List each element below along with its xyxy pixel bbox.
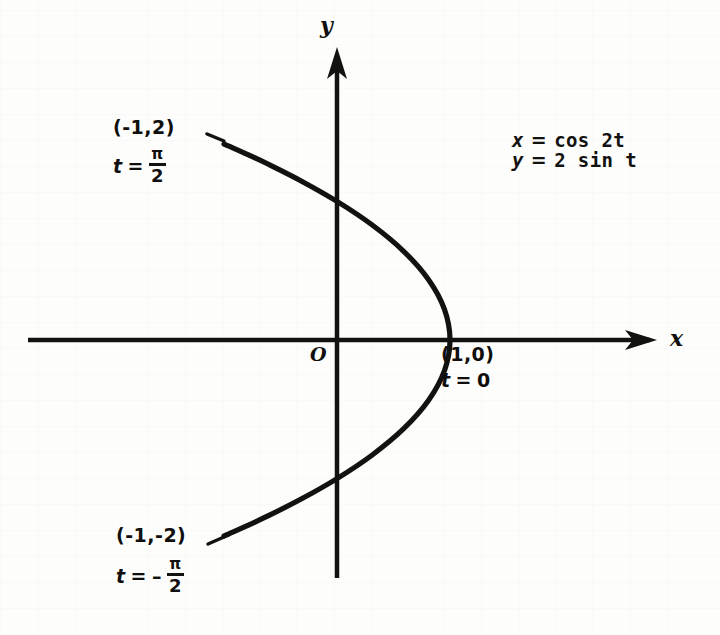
equation-x-equals: = — [531, 131, 547, 151]
parametric-equations-block: x = cos 2t y = 2 sin t — [512, 131, 637, 171]
upper-t-variable: t — [113, 157, 123, 177]
annotation-upper-t-label: t = π 2 — [113, 148, 166, 186]
equation-y-expression: 2 sin t — [554, 151, 637, 171]
upper-t-fraction: π 2 — [149, 147, 166, 185]
upper-t-numerator: π — [149, 147, 165, 163]
lower-leader-line — [208, 537, 224, 544]
coordinate-plot — [0, 0, 720, 635]
equation-x-variable: x — [512, 131, 524, 151]
origin-label: O — [310, 345, 327, 365]
equation-y-equals: = — [531, 151, 547, 171]
upper-t-denominator: 2 — [149, 166, 166, 185]
equation-y-variable: y — [512, 151, 524, 171]
upper-t-equals: = — [128, 157, 144, 177]
annotation-upper-point-label: (-1,2) — [113, 118, 175, 138]
right-t-value: 0 — [477, 371, 491, 391]
annotation-right-point-label: (1,0) — [441, 345, 495, 365]
equation-y-line: y = 2 sin t — [512, 151, 637, 171]
y-axis-label: y — [320, 14, 333, 37]
parametric-curve-figure: (-1,2) t = π 2 (-1,-2) t = – π 2 (1,0) t… — [0, 0, 720, 635]
equation-x-expression: cos 2t — [554, 131, 625, 151]
equation-x-line: x = cos 2t — [512, 131, 637, 151]
lower-t-fraction: π 2 — [167, 557, 184, 595]
lower-t-equals: = — [131, 567, 147, 587]
right-t-equals: = — [456, 371, 472, 391]
right-t-variable: t — [441, 371, 451, 391]
annotation-lower-point-label: (-1,-2) — [116, 526, 186, 546]
annotation-lower-t-label: t = – π 2 — [116, 558, 184, 596]
lower-t-numerator: π — [167, 557, 183, 573]
lower-t-variable: t — [116, 567, 126, 587]
upper-leader-line — [207, 134, 224, 141]
lower-t-denominator: 2 — [167, 576, 184, 595]
annotation-right-t-label: t = 0 — [441, 371, 491, 391]
x-axis-label: x — [670, 327, 683, 350]
lower-t-minus-sign: – — [152, 567, 162, 587]
